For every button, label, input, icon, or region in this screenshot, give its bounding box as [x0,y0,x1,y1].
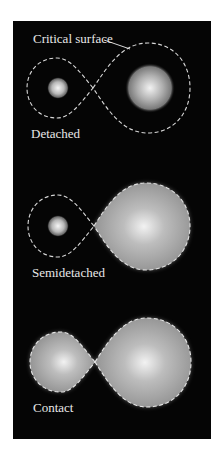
contact-large-star [95,318,191,407]
semidetached-large-star [94,183,190,270]
critical-surface-label: Critical surface [33,31,113,46]
semidetached-label: Semidetached [32,265,105,280]
semidetached-configuration: Semidetached [28,183,190,280]
contact-label: Contact [33,400,74,415]
binary-star-diagram: Critical surface Detached Semidetached C… [0,0,221,453]
detached-large-star [125,63,175,113]
semidetached-small-star [47,215,69,237]
detached-small-star [47,77,69,99]
contact-small-star [30,332,95,392]
detached-label: Detached [31,126,81,141]
contact-configuration: Contact [30,318,191,415]
detached-configuration: Critical surface Detached [27,31,190,141]
